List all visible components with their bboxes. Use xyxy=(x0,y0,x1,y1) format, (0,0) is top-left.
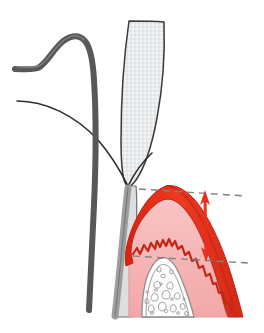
arrow-shaft xyxy=(205,197,206,255)
probe-shank-curve xyxy=(15,36,96,310)
periodontal-probe-instrument[interactable] xyxy=(15,36,128,316)
illustration-canvas xyxy=(0,0,264,333)
periodontal-probing-depth-svg xyxy=(0,0,264,333)
